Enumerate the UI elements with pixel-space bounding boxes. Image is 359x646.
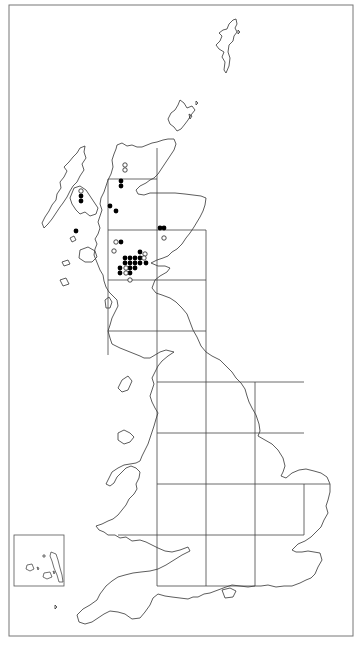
filled-record-dot: [133, 256, 138, 261]
filled-record-dot: [138, 250, 143, 255]
open-record-dot: [142, 256, 146, 260]
filled-record-dot: [144, 261, 149, 266]
filled-record-dot: [118, 266, 123, 271]
open-record-dot: [123, 168, 127, 172]
channel-islands-inset: [14, 535, 64, 586]
filled-record-dot: [162, 226, 167, 231]
filled-record-dot: [123, 261, 128, 266]
filled-record-dot: [108, 204, 113, 209]
open-record-dot: [114, 240, 118, 244]
isle-of-arran: [105, 297, 112, 308]
filled-record-dot: [114, 209, 119, 214]
outer-hebrides: [42, 146, 86, 228]
open-record-dot: [124, 266, 128, 270]
filled-record-dot: [79, 194, 84, 199]
filled-record-dot: [128, 256, 133, 261]
filled-record-dot: [133, 261, 138, 266]
filled-record-dot: [138, 261, 143, 266]
filled-record-dot: [119, 184, 124, 189]
filled-record-dot: [118, 271, 123, 276]
isle-of-wight: [222, 588, 236, 598]
filled-record-dot: [79, 199, 84, 204]
coastline: [42, 19, 330, 624]
filled-record-dot: [119, 179, 124, 184]
filled-record-dot: [128, 261, 133, 266]
filled-record-dot: [133, 266, 138, 271]
filled-record-dot: [119, 240, 124, 245]
open-record-dot: [162, 236, 166, 240]
map-frame: [9, 5, 353, 636]
filled-record-dot: [74, 229, 79, 234]
open-record-dot: [124, 271, 128, 275]
isle-of-skye: [70, 186, 98, 216]
grid-lines: [108, 148, 330, 586]
open-record-dot: [128, 278, 132, 282]
open-record-dot: [79, 189, 83, 193]
isle-of-man: [118, 376, 132, 392]
distribution-map: [0, 0, 359, 646]
shetland-islands: [216, 19, 237, 73]
open-record-dot: [112, 249, 116, 253]
anglesey: [118, 430, 134, 444]
filled-record-dot: [123, 256, 128, 261]
open-record-dot: [123, 163, 127, 167]
